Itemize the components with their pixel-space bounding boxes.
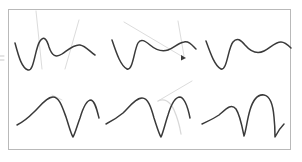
diagonal-annotation-3 (124, 22, 183, 57)
arch-valley-arch-valley-curve (17, 97, 99, 137)
panel-bottom-right (202, 95, 284, 137)
wave-dip-broad-hump-curve (206, 39, 291, 69)
panel-top-center (112, 21, 196, 69)
wave-dip-hump-curve (15, 38, 95, 70)
panel-top-left (15, 11, 95, 70)
panel-bottom-center (106, 81, 192, 137)
panel-bottom-left (17, 95, 99, 137)
edge-marks-group (0, 56, 4, 60)
curve-figure (0, 0, 302, 162)
panel-top-right (206, 39, 291, 69)
diagonal-annotation-5 (158, 81, 192, 101)
diagonal-annotation-4 (178, 21, 184, 56)
arch-valley-tall-arch-right-curve (202, 95, 284, 137)
figure-canvas (0, 0, 302, 162)
ghost-arch-curve (158, 100, 181, 134)
